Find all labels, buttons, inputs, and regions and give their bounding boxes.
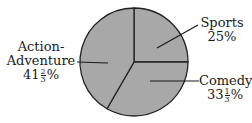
action-name-line2: Adventure: [3, 54, 79, 68]
sports-percent: 25%: [199, 30, 245, 44]
comedy-name: Comedy: [199, 74, 251, 88]
comedy-label: Comedy 3313%: [199, 74, 251, 103]
pie-slices: [80, 8, 188, 116]
action-percent: 4123%: [3, 68, 79, 83]
sports-label: Sports 25%: [199, 16, 245, 44]
sports-name: Sports: [199, 16, 245, 30]
action-name-line1: Action-: [3, 40, 79, 54]
action-fraction: 23: [41, 68, 46, 83]
comedy-percent: 3313%: [199, 88, 251, 103]
action-adventure-label: Action- Adventure 4123%: [3, 40, 79, 83]
comedy-fraction: 13: [225, 88, 230, 103]
